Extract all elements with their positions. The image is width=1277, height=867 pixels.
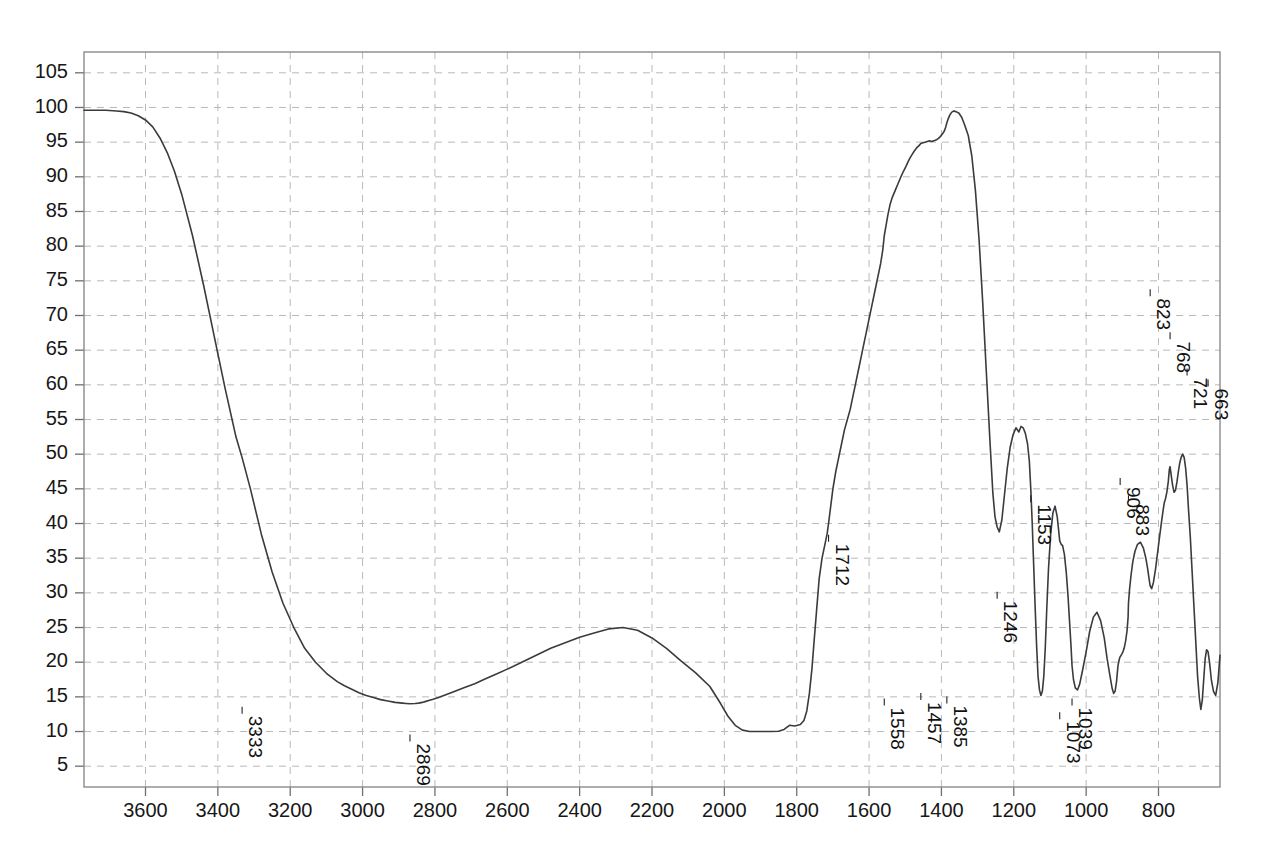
x-axis-tick-label: 2600: [485, 799, 530, 821]
peak-label: 883: [1132, 504, 1153, 536]
peak-label: 1457: [924, 702, 945, 744]
y-axis-tick-label: 60: [46, 372, 68, 394]
y-axis-tick-label: 75: [46, 268, 68, 290]
y-axis-tick-label: 35: [46, 545, 68, 567]
y-axis-tick-label: 5: [57, 753, 68, 775]
x-axis-tick-label: 800: [1142, 799, 1175, 821]
y-axis-tick-label: 100: [35, 95, 68, 117]
peak-label: 2869: [413, 744, 434, 786]
x-axis-tick-label: 1000: [1064, 799, 1109, 821]
x-axis-tick-label: 1600: [847, 799, 892, 821]
x-axis-tick-label: 3000: [340, 799, 385, 821]
x-axis-tick-label: 1800: [774, 799, 819, 821]
x-axis-tick-label: 3400: [196, 799, 241, 821]
x-axis-tick-label: 3600: [123, 799, 168, 821]
x-axis-tick-label: 2200: [630, 799, 675, 821]
y-axis-tick-label: 85: [46, 199, 68, 221]
ir-spectrum-chart: 5101520253035404550556065707580859095100…: [0, 0, 1277, 867]
peak-label: 768: [1173, 341, 1194, 373]
y-axis-tick-label: 80: [46, 233, 68, 255]
y-axis-tick-label: 50: [46, 441, 68, 463]
x-axis-tick-label: 3200: [268, 799, 313, 821]
y-axis-tick-label: 15: [46, 684, 68, 706]
peak-label: 1712: [832, 544, 853, 586]
y-axis-tick-label: 25: [46, 615, 68, 637]
peak-label: 663: [1211, 389, 1232, 421]
ir-spectrum-page: 5101520253035404550556065707580859095100…: [0, 0, 1277, 867]
x-axis-tick-label: 2800: [413, 799, 458, 821]
x-axis-tick-label: 1200: [992, 799, 1037, 821]
x-axis-tick-labels: 3600340032003000280026002400220020001800…: [123, 799, 1175, 821]
peak-label: 1153: [1034, 504, 1055, 545]
y-axis-tick-label: 65: [46, 337, 68, 359]
peak-label: 1039: [1075, 708, 1096, 750]
peak-label: 823: [1153, 298, 1174, 330]
peak-label: 3333: [245, 716, 266, 758]
y-axis-tick-label: 45: [46, 476, 68, 498]
peak-label: 1385: [950, 705, 971, 747]
y-axis-tick-label: 105: [35, 60, 68, 82]
y-axis-tick-label: 70: [46, 303, 68, 325]
y-axis-tick-label: 40: [46, 511, 68, 533]
y-axis-tick-label: 55: [46, 407, 68, 429]
x-axis-tick-label: 2400: [557, 799, 602, 821]
x-axis-tick-label: 1400: [919, 799, 964, 821]
y-axis-tick-label: 95: [46, 129, 68, 151]
y-axis-tick-label: 30: [46, 580, 68, 602]
peak-label: 1246: [1000, 601, 1021, 643]
y-axis-tick-label: 10: [46, 719, 68, 741]
peak-label: 1558: [887, 708, 908, 750]
y-axis-tick-label: 20: [46, 649, 68, 671]
x-axis-tick-label: 2000: [702, 799, 747, 821]
y-axis-tick-label: 90: [46, 164, 68, 186]
